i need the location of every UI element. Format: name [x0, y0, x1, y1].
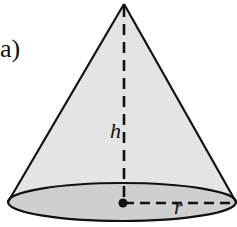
cone-diagram: a) h r [0, 0, 237, 227]
height-label: h [110, 120, 121, 142]
cone-figure [0, 0, 237, 227]
base-center-point [119, 199, 128, 208]
radius-label: r [174, 196, 183, 218]
part-label: a) [0, 36, 20, 62]
